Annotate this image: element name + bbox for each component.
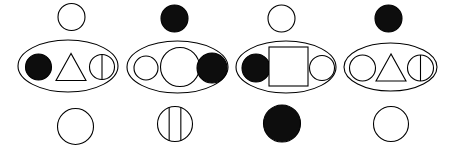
group-3-container bbox=[236, 41, 336, 93]
group-3-item-2 bbox=[269, 47, 308, 86]
item-square bbox=[269, 47, 308, 86]
top-circle bbox=[375, 5, 402, 32]
item-circle bbox=[134, 56, 158, 80]
shape-group-2 bbox=[127, 5, 228, 142]
top-circle bbox=[58, 4, 85, 31]
group-4-bottom-shape bbox=[374, 107, 409, 142]
shape-group-3 bbox=[236, 5, 336, 142]
item-circle bbox=[350, 55, 376, 81]
top-circle bbox=[268, 5, 295, 32]
item-circle bbox=[197, 53, 227, 83]
item-circle bbox=[310, 56, 335, 81]
group-3-item-1 bbox=[242, 54, 270, 82]
item-circle bbox=[161, 48, 200, 87]
group-1-bottom-shape bbox=[58, 109, 94, 145]
shape-diagram bbox=[0, 0, 459, 151]
group-4-container bbox=[344, 43, 437, 91]
group-1-item-1 bbox=[26, 54, 52, 80]
bottom-split-circle-outline bbox=[158, 107, 193, 142]
group-3-top-shape bbox=[268, 5, 295, 32]
shape-group-1 bbox=[18, 4, 118, 145]
group-2-top-shape bbox=[161, 5, 188, 32]
group-2-item-1 bbox=[134, 56, 158, 80]
group-3-item-3 bbox=[310, 56, 335, 81]
group-3-bottom-shape bbox=[264, 105, 301, 142]
item-circle bbox=[242, 54, 270, 82]
group-2-bottom-shape bbox=[158, 107, 193, 142]
item-split-circle bbox=[408, 55, 434, 81]
group-2-container bbox=[127, 41, 228, 93]
group-2-item-2 bbox=[161, 48, 200, 87]
group-1-top-shape bbox=[58, 4, 85, 31]
bottom-circle bbox=[374, 107, 409, 142]
item-split-circle bbox=[90, 55, 115, 80]
group-2-item-3 bbox=[197, 53, 227, 83]
group-4-top-shape bbox=[375, 5, 402, 32]
item-circle bbox=[26, 54, 52, 80]
group-1-item-3 bbox=[90, 55, 115, 80]
top-circle bbox=[161, 5, 188, 32]
group-1-container bbox=[18, 40, 118, 92]
bottom-circle bbox=[264, 105, 301, 142]
group-4-item-3 bbox=[408, 55, 434, 81]
shape-group-4 bbox=[344, 5, 437, 142]
group-4-item-1 bbox=[350, 55, 376, 81]
bottom-circle bbox=[58, 109, 94, 145]
bottom-split-circle bbox=[158, 107, 193, 142]
figure-canvas bbox=[0, 0, 459, 151]
